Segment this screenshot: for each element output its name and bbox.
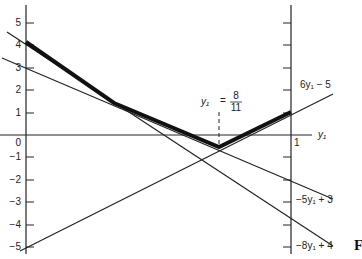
annotation-equals: =	[220, 95, 226, 106]
figure-caption-fragment: F	[354, 237, 362, 253]
x-tick-label-1: 1	[294, 137, 300, 148]
tick-label-1: 1	[15, 107, 21, 118]
annotation-numerator: 8	[233, 90, 239, 101]
line-neg5y1-plus-3	[2, 58, 333, 199]
tick-label-neg1: −1	[10, 151, 22, 162]
tick-label-neg2: −2	[10, 174, 22, 185]
tick-label-5: 5	[15, 17, 21, 28]
tick-label-neg5: −5	[10, 241, 22, 252]
annotation-denominator: 11	[231, 102, 242, 113]
label-6y1-minus-5: 6y₁ − 5	[300, 79, 331, 90]
tick-label-0: 0	[15, 137, 21, 148]
tick-label-neg4: −4	[10, 219, 22, 230]
tick-label-2: 2	[15, 84, 21, 95]
optimum-annotation: y₁ = 8 11	[200, 90, 242, 113]
annotation-variable: y₁	[200, 96, 209, 107]
label-neg8y1-plus-4: −8y₁ + 4	[296, 240, 333, 251]
label-neg5y1-plus-3: −5y₁ + 3	[296, 194, 333, 205]
tick-label-neg3: −3	[10, 196, 22, 207]
line-6y1-minus-5	[20, 94, 333, 251]
envelope-diagram: 5 4 3 2 1 0 −1 −2 −3 −4 −5 1 y₁ y₁ = 8 1…	[0, 0, 362, 259]
x-axis-label: y₁	[317, 129, 326, 140]
